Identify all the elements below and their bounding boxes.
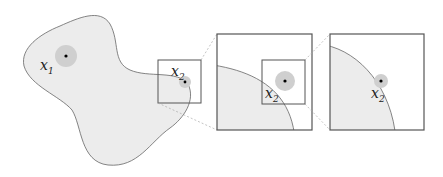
zoom-diagram: x1 x2 x2 x2 (0, 0, 443, 177)
point-x2-zoom1 (283, 79, 286, 82)
connector-top-2 (305, 34, 330, 60)
connector-bottom-2 (305, 104, 330, 130)
connector-top-1 (201, 34, 217, 60)
point-x2-zoom2 (379, 79, 382, 82)
region-zoomed-2 (325, 45, 396, 140)
point-x1 (64, 54, 67, 57)
region-blob (23, 15, 190, 165)
